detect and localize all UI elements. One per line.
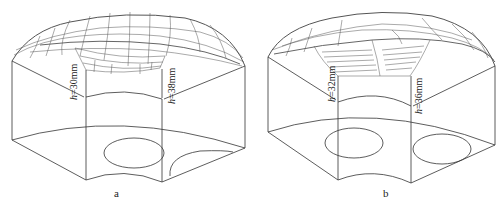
thickness-label-a-left: h=30mm — [68, 64, 79, 100]
panel-caption-a: a — [114, 187, 119, 199]
thickness-label-b-left: h=32mm — [326, 66, 337, 102]
panel-b-diagram — [252, 0, 503, 209]
panel-a: h=30mm h=38mm a — [0, 0, 252, 209]
box-frame-a — [12, 61, 245, 182]
panel-b: h=32mm h=36mm b — [252, 0, 503, 209]
mesh-surface-a — [12, 12, 245, 74]
mesh-surface-b — [268, 12, 495, 76]
thickness-label-b-right: h=36mm — [413, 78, 424, 114]
panel-a-diagram — [0, 0, 252, 209]
thickness-label-a-right: h=38mm — [166, 68, 177, 104]
panel-caption-b: b — [383, 187, 389, 199]
